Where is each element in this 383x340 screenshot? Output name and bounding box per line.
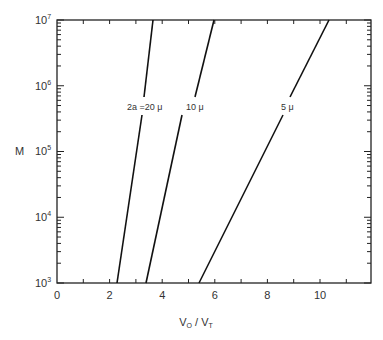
y-tick-labels: 103 104 105 106 107	[35, 13, 51, 289]
series-line-10mu	[146, 115, 182, 283]
plot-frame	[57, 20, 371, 283]
series-line-20mu	[117, 115, 142, 283]
x-tick-label: 2	[107, 289, 113, 301]
series-labels: 2a =20 μ 10 μ 5 μ	[127, 102, 294, 112]
x-tick-label: 8	[264, 289, 270, 301]
y-tick-label: 104	[35, 210, 51, 223]
x-tick-label: 0	[54, 289, 60, 301]
x-tick-label: 10	[314, 289, 326, 301]
y-tick-label: 103	[35, 276, 51, 289]
x-axis-label: VO / VT	[179, 316, 213, 329]
y-tick-label: 107	[35, 13, 51, 26]
y-ticks	[57, 20, 371, 283]
series-line-20mu-top	[144, 20, 153, 97]
chart: 0 2 4 6 8 10 103 104 105 106 107 M VO / …	[0, 0, 383, 340]
series-label-20mu: 2a =20 μ	[127, 102, 162, 112]
series-label-5mu: 5 μ	[281, 102, 294, 112]
series-line-10mu-top	[195, 20, 214, 97]
y-axis-label: M	[15, 145, 24, 157]
series-lines	[117, 20, 329, 283]
series-line-5mu	[199, 115, 283, 283]
y-tick-label: 105	[35, 144, 51, 157]
series-label-10mu: 10 μ	[186, 102, 204, 112]
x-tick-label: 6	[212, 289, 218, 301]
x-tick-labels: 0 2 4 6 8 10	[54, 289, 326, 301]
x-tick-label: 4	[159, 289, 165, 301]
series-line-5mu-top	[290, 20, 329, 97]
y-tick-label: 106	[35, 79, 51, 92]
